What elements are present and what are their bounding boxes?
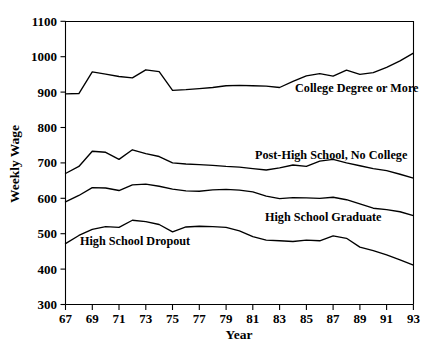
series-label-college-degree-or-more: College Degree or More [295, 81, 419, 95]
series-label-post-high-school-no-college: Post-High School, No College [255, 148, 408, 162]
weekly-wage-line-chart: 300 400 500 600 700 800 900 1000 1100 [0, 0, 442, 341]
x-tick-label-12: 91 [380, 311, 393, 326]
y-axis-ticks [61, 21, 66, 304]
series-annotations: College Degree or More Post-High School,… [80, 81, 419, 248]
x-tick-label-13: 93 [407, 311, 421, 326]
x-axis-ticks [66, 305, 414, 311]
series-label-high-school-graduate: High School Graduate [265, 210, 382, 224]
y-tick-label-4: 700 [38, 155, 58, 170]
series-label-high-school-dropout: High School Dropout [80, 234, 190, 248]
x-tick-label-5: 77 [193, 311, 207, 326]
y-tick-label-5: 800 [38, 120, 58, 135]
x-axis-title: Year [226, 327, 253, 341]
y-axis-tick-labels: 300 400 500 600 700 800 900 1000 1100 [31, 14, 57, 312]
y-tick-label-8: 1100 [32, 14, 57, 29]
y-tick-label-3: 600 [38, 191, 58, 206]
x-tick-label-3: 73 [139, 311, 153, 326]
y-tick-label-0: 300 [38, 297, 58, 312]
x-tick-label-7: 81 [246, 311, 259, 326]
x-tick-label-11: 89 [353, 311, 367, 326]
x-tick-label-1: 69 [86, 311, 100, 326]
y-tick-label-6: 900 [38, 85, 58, 100]
y-tick-label-2: 500 [38, 226, 58, 241]
y-tick-label-1: 400 [38, 262, 58, 277]
x-tick-label-2: 71 [113, 311, 126, 326]
x-tick-label-6: 79 [220, 311, 234, 326]
x-tick-label-10: 87 [327, 311, 341, 326]
x-tick-label-9: 85 [300, 311, 314, 326]
y-tick-label-7: 1000 [31, 49, 57, 64]
x-tick-label-4: 75 [166, 311, 180, 326]
y-axis-title: Weekly Wage [7, 125, 22, 203]
plot-frame [66, 21, 414, 305]
chart-canvas: 300 400 500 600 700 800 900 1000 1100 [0, 0, 442, 341]
x-tick-label-8: 83 [273, 311, 287, 326]
x-axis-tick-labels: 67 69 71 73 75 77 79 81 83 85 87 89 91 9… [59, 311, 420, 326]
x-tick-label-0: 67 [59, 311, 73, 326]
